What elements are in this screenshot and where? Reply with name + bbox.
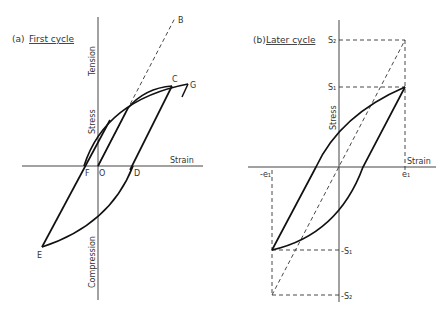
strain-label-b: Strain: [407, 157, 431, 166]
reload-line-ef: [42, 120, 110, 247]
tension-label: Tension: [88, 46, 97, 77]
panel-b: (b) Later cycle Stress Strain S₂ S₁ e₁ -…: [248, 20, 436, 302]
panel-a-title: First cycle: [29, 34, 75, 44]
point-d: D: [134, 169, 140, 178]
loading-curve-oc: [98, 86, 172, 166]
label-e1: e₁: [402, 170, 410, 179]
panel-a: (a) First cycle Tension Stress Compressi…: [12, 16, 203, 300]
unloading-line-cd: [130, 86, 172, 170]
g-tail: [182, 84, 188, 97]
label-s2: S₂: [328, 36, 336, 45]
label-neg-s2: -S₂: [341, 292, 352, 301]
label-neg-s1: -S₁: [341, 247, 352, 256]
figure: (a) First cycle Tension Stress Compressi…: [0, 0, 448, 312]
panel-b-title: Later cycle: [266, 35, 316, 45]
reload-curve-fg: [84, 84, 188, 166]
compression-label: Compression: [88, 236, 97, 288]
stress-label-a: Stress: [88, 109, 97, 134]
point-c: C: [172, 75, 178, 84]
label-s1: S₁: [328, 83, 336, 92]
point-e: E: [37, 251, 42, 260]
point-o: O: [99, 169, 105, 178]
compression-curve-de: [42, 166, 133, 247]
hysteresis-diagram: (a) First cycle Tension Stress Compressi…: [0, 0, 448, 312]
strain-label-a: Strain: [170, 156, 194, 165]
point-b: B: [178, 16, 184, 25]
panel-b-prefix: (b): [253, 35, 266, 45]
label-neg-e1: -e₁: [260, 170, 271, 179]
point-g: G: [190, 81, 196, 90]
stress-label-b: Stress: [329, 105, 338, 130]
point-f: F: [85, 169, 90, 178]
panel-a-prefix: (a): [12, 34, 25, 44]
